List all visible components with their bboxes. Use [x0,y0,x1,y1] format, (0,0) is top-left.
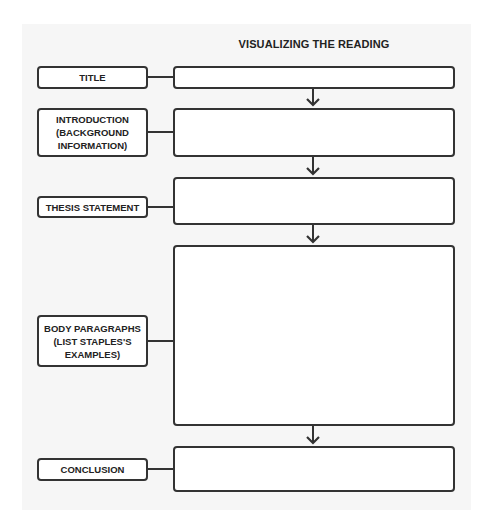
answer-box-thesis-statement[interactable] [173,177,455,225]
connector-introduction [148,131,173,133]
label-title: TITLE [37,66,148,89]
label-introduction: INTRODUCTION (BACKGROUND INFORMATION) [37,108,148,157]
label-thesis-statement: THESIS STATEMENT [37,196,148,218]
answer-box-introduction[interactable] [173,108,455,157]
down-arrow-icon [305,426,321,446]
answer-box-body-paragraphs[interactable] [173,245,455,426]
connector-title [148,76,173,78]
connector-thesis-statement [148,206,173,208]
label-conclusion: CONCLUSION [37,458,148,481]
down-arrow-icon [305,89,321,108]
connector-conclusion [148,468,173,470]
down-arrow-icon [305,225,321,245]
diagram-heading: VISUALIZING THE READING [173,38,455,50]
answer-box-conclusion[interactable] [173,446,455,492]
label-body-paragraphs: BODY PARAGRAPHS (LIST STAPLES'S EXAMPLES… [37,315,148,367]
connector-body-paragraphs [148,340,173,342]
down-arrow-icon [305,157,321,177]
answer-box-title[interactable] [173,66,455,89]
